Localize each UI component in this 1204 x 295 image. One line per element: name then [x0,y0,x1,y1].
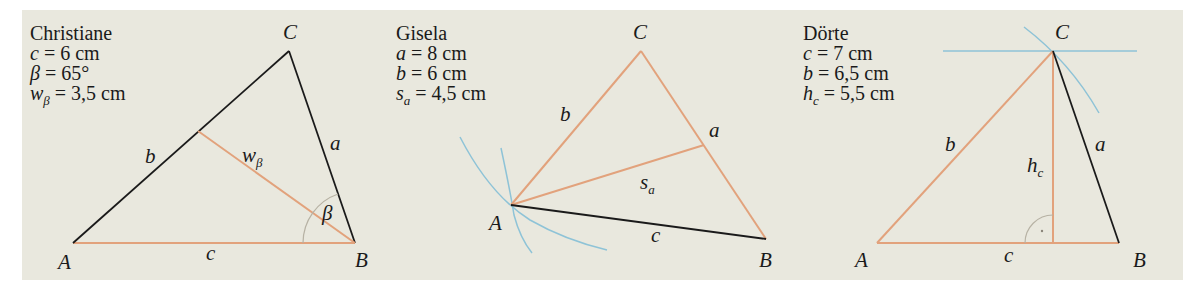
side-b [511,51,641,205]
given-christiane: Christiane c = 6 cm β = 65° wβ = 3,5 cm [30,23,126,103]
given-row: hc = 5,5 cm [803,83,895,103]
vertex-label-c: C [1055,22,1069,43]
angle-label-beta: β [322,203,332,224]
side-label-a: a [330,133,341,154]
right-angle-dot [1041,230,1043,232]
side-b [877,51,1053,243]
given-row: b = 6 cm [396,63,486,83]
triangle-constructions [0,0,1204,295]
given-row: sa = 4,5 cm [396,83,486,103]
side-a [1053,51,1119,243]
median-s-a [511,145,704,205]
side-label-c: c [1004,245,1013,266]
side-label-c: c [206,243,215,264]
vertex-label-b: B [355,250,368,271]
given-row: a = 8 cm [396,43,486,63]
right-angle-arc [1025,215,1053,243]
side-label-b: b [560,104,571,125]
vertex-label-c: C [283,22,297,43]
side-label-b: b [945,134,956,155]
given-doerte: Dörte c = 7 cm b = 6,5 cm hc = 5,5 cm [803,23,895,103]
vertex-label-a: A [58,252,71,273]
vertex-label-a: A [489,213,502,234]
side-c [511,205,766,239]
vertex-label-b: B [759,250,772,271]
given-row: b = 6,5 cm [803,63,895,83]
side-label-c: c [651,225,660,246]
height-label: hc [1027,155,1043,176]
bisector-label: wβ [242,145,263,166]
side-label-a: a [1095,134,1106,155]
figure-name: Gisela [396,23,486,43]
side-label-b: b [145,146,156,167]
vertex-label-b: B [1133,250,1146,271]
given-row: β = 65° [30,63,126,83]
construction-arc-1 [460,137,607,250]
given-gisela: Gisela a = 8 cm b = 6 cm sa = 4,5 cm [396,23,486,103]
given-row: c = 6 cm [30,43,126,63]
vertex-label-c: C [633,22,647,43]
side-label-a: a [709,120,720,141]
figure-name: Dörte [803,23,895,43]
given-row: c = 7 cm [803,43,895,63]
given-row: wβ = 3,5 cm [30,83,126,103]
vertex-label-a: A [855,250,868,271]
figure-name: Christiane [30,23,126,43]
median-label: sa [640,172,655,193]
figure-gisela [460,51,766,253]
